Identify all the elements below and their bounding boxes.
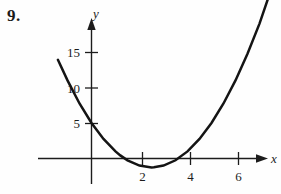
- x-axis-arrow-icon: [256, 154, 268, 162]
- x-tick-label-6: 6: [235, 169, 242, 184]
- y-tick-label-15: 15: [67, 45, 80, 60]
- figure-container: 9. 15 10 5 2 4 6 y x: [0, 0, 281, 194]
- x-tick-label-2: 2: [139, 169, 146, 184]
- parabola-plot: 15 10 5 2 4 6 y x: [0, 0, 281, 194]
- x-axis-label: x: [270, 151, 277, 166]
- y-axis-label: y: [91, 6, 99, 21]
- y-tick-label-5: 5: [74, 116, 81, 131]
- x-tick-label-4: 4: [187, 169, 194, 184]
